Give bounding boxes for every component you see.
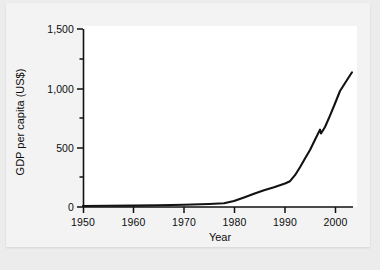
- xtick-label-2000: 2000: [324, 216, 348, 228]
- figure-container: 0 500 1,000 1,500 1950 1960 1970 1980 19…: [0, 0, 380, 270]
- xtick-label-1980: 1980: [223, 216, 247, 228]
- xtick-label-1990: 1990: [273, 216, 297, 228]
- ytick-label-1500: 1,500: [30, 23, 74, 35]
- data-series-line: [83, 72, 352, 206]
- ytick-label-1000: 1,000: [30, 83, 74, 95]
- xtick-label-1970: 1970: [172, 216, 196, 228]
- ytick-label-0: 0: [36, 201, 74, 213]
- x-axis-title: Year: [83, 231, 357, 243]
- chart-svg: [0, 0, 380, 270]
- y-axis-title: GDP per capita (US$): [14, 42, 26, 202]
- xtick-label-1950: 1950: [71, 216, 95, 228]
- y-axis-ticks: [77, 29, 83, 207]
- xtick-label-1960: 1960: [122, 216, 146, 228]
- ytick-label-500: 500: [36, 142, 74, 154]
- caption-fragment: [10, 255, 370, 268]
- x-axis-ticks: [84, 207, 336, 213]
